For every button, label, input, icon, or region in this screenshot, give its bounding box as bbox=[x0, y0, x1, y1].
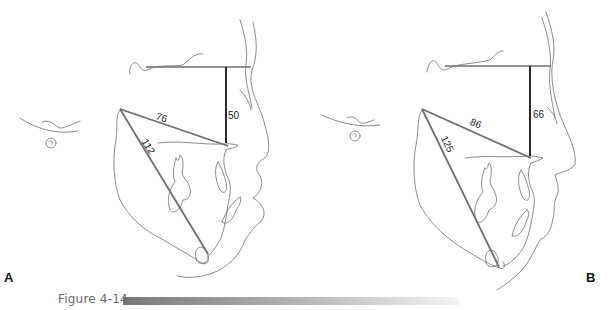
panel-a-orbit-outline bbox=[130, 54, 203, 74]
panel-b-profile-outer bbox=[497, 12, 575, 290]
panel-a-incisor-upper bbox=[216, 162, 227, 192]
panel-b-incisor-lower bbox=[512, 210, 529, 236]
panel-b-profile-inner bbox=[542, 18, 555, 118]
panel-a-mandible bbox=[114, 110, 209, 264]
panel-a-measurements bbox=[120, 67, 251, 254]
panel-b-vertical-value: 66 bbox=[533, 109, 545, 120]
caption-gradient-bar bbox=[123, 297, 459, 305]
panel-b-upper-diagonal bbox=[422, 109, 531, 158]
panel-b-orbit-outline bbox=[427, 51, 503, 72]
panel-a-profile-inner bbox=[240, 20, 252, 108]
panel-b-lower-diagonal bbox=[422, 109, 499, 267]
panel-a-lower-diagonal-value: 112 bbox=[140, 137, 158, 157]
cephalometric-tracings: 50 76 112 66 86 125 bbox=[0, 0, 608, 310]
panel-a-upper-diagonal bbox=[120, 109, 228, 146]
panel-a-incisor-lower bbox=[222, 197, 241, 223]
panel-b-measurements bbox=[422, 66, 551, 267]
panel-label-a: A bbox=[4, 270, 13, 285]
panel-b-upper-diagonal-value: 86 bbox=[468, 116, 483, 131]
panel-b-mandible bbox=[414, 110, 505, 269]
panel-b-ear-circle bbox=[350, 131, 360, 141]
panel-a-molar bbox=[168, 155, 190, 212]
panel-label-b: B bbox=[586, 270, 595, 285]
panel-b-palate bbox=[465, 156, 543, 163]
panel-a-vertical-value: 50 bbox=[228, 110, 240, 121]
panel-b-molar bbox=[475, 163, 497, 222]
panel-a-lower-diagonal bbox=[120, 109, 208, 254]
panel-a-profile-outer bbox=[177, 22, 269, 277]
panel-b-lower-diagonal-value: 125 bbox=[439, 134, 456, 154]
panel-b-incisor-upper bbox=[519, 170, 530, 200]
panel-a-ear-circle bbox=[46, 138, 56, 148]
figure-caption: Figure 4-14 bbox=[58, 292, 128, 306]
panel-a-ear-outline bbox=[20, 118, 78, 132]
